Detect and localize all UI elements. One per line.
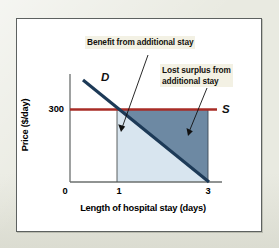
y-tick-300: 300 xyxy=(34,104,64,114)
demand-curve-label: D xyxy=(101,71,109,83)
benefit-callout: Benefit from additional stay xyxy=(85,36,195,49)
y-axis-title-text: Price ($/day) xyxy=(20,99,30,152)
supply-curve-label: S xyxy=(222,103,230,115)
lost-surplus-callout: Lost surplus from additional stay xyxy=(160,64,233,87)
x-tick-0: 0 xyxy=(58,186,72,196)
y-axis-title: Price ($/day) xyxy=(17,82,33,168)
figure-container: Benefit from additional stay Lost surplu… xyxy=(0,0,279,248)
x-axis-title: Length of hospital stay (days) xyxy=(58,203,228,213)
x-tick-1: 1 xyxy=(112,186,126,196)
x-tick-3: 3 xyxy=(201,186,215,196)
